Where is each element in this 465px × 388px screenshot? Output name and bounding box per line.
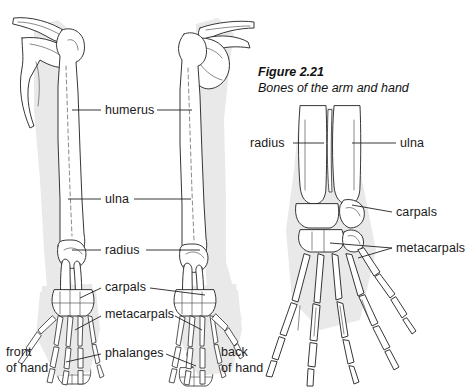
label-carpals-detail: carpals xyxy=(396,205,437,220)
label-humerus: humerus xyxy=(105,103,154,118)
hand-detail xyxy=(266,106,416,386)
label-ulna: ulna xyxy=(105,192,129,207)
figure-title: Bones of the arm and hand xyxy=(258,81,409,95)
label-metacarpals: metacarpals xyxy=(105,307,174,322)
note-back-line1: back xyxy=(221,345,248,359)
figure-caption: Figure 2.21 Bones of the arm and hand xyxy=(258,64,409,96)
label-ulna-detail: ulna xyxy=(400,136,424,151)
label-radius: radius xyxy=(105,243,140,258)
label-metacarpals-detail: metacarpals xyxy=(396,241,465,256)
label-radius-detail: radius xyxy=(250,136,285,151)
note-front-line2: of hand xyxy=(6,361,48,375)
label-carpals: carpals xyxy=(105,280,146,295)
note-back-line2: of hand xyxy=(221,361,263,375)
figure-number: Figure 2.21 xyxy=(258,65,324,79)
note-front-of-hand: front of hand xyxy=(6,344,48,376)
note-front-line1: front xyxy=(6,345,32,359)
note-back-of-hand: back of hand xyxy=(221,344,263,376)
label-phalanges: phalanges xyxy=(105,346,164,361)
